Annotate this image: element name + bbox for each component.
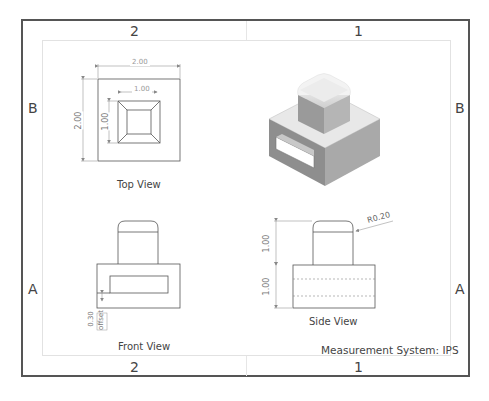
side-view-caption: Side View xyxy=(309,316,358,327)
drawing-canvas xyxy=(0,0,489,401)
side-view-geometry xyxy=(293,221,375,308)
front-view-geometry xyxy=(97,221,180,308)
dim-side-upper-height: 1.00 xyxy=(262,235,271,253)
dim-front-offset-note: offset xyxy=(97,310,105,330)
dim-top-inner-height: 1.00 xyxy=(101,113,110,131)
isometric-view-geometry xyxy=(269,74,380,187)
dim-top-outer-width: 2.00 xyxy=(130,58,150,66)
dim-top-inner-width: 1.00 xyxy=(132,85,152,93)
dim-front-offset-value: 0.30 xyxy=(87,311,95,327)
top-view-dimensions xyxy=(81,64,180,161)
dim-top-outer-height: 2.00 xyxy=(74,112,83,130)
measurement-system-note: Measurement System: IPS xyxy=(321,344,459,356)
side-view-hidden-lines xyxy=(293,279,375,296)
top-view-caption: Top View xyxy=(117,179,161,190)
dim-side-lower-height: 1.00 xyxy=(262,278,271,296)
front-view-caption: Front View xyxy=(118,341,170,352)
